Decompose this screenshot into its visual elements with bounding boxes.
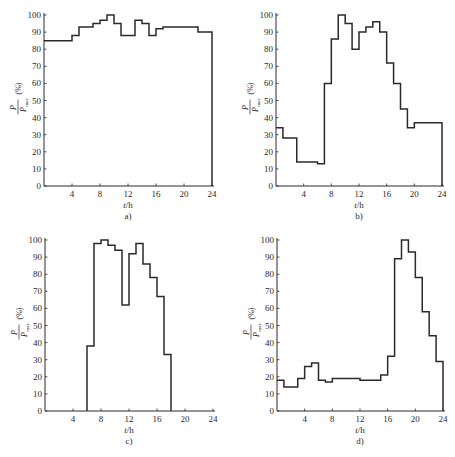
panel-label: d) xyxy=(356,436,364,446)
y-tick-label: 10 xyxy=(265,389,275,399)
chart-panel-d: 01020304050607080901004812162024t/hd)PPm… xyxy=(0,0,228,225)
x-tick-label: 4 xyxy=(302,414,307,424)
y-tick-label: 100 xyxy=(261,235,275,245)
y-tick-label: 40 xyxy=(265,338,275,348)
y-label-numerator: P xyxy=(242,330,251,336)
y-tick-label: 80 xyxy=(265,269,275,279)
y-tick-label: 30 xyxy=(265,355,275,365)
x-axis-label: t/h xyxy=(355,425,365,435)
y-label-denominator: P xyxy=(252,332,261,338)
step-chart-d: 01020304050607080901004812162024t/hd)PPm… xyxy=(0,0,455,457)
y-tick-label: 90 xyxy=(265,252,275,262)
x-tick-label: 24 xyxy=(439,414,449,424)
x-tick-label: 20 xyxy=(411,414,421,424)
y-tick-label: 70 xyxy=(265,286,275,296)
y-label-unit: (%) xyxy=(247,307,256,319)
x-tick-label: 16 xyxy=(383,414,393,424)
y-tick-label: 50 xyxy=(265,321,275,331)
y-axis-label: PPmax(%) xyxy=(242,307,262,339)
y-tick-label: 60 xyxy=(265,303,275,313)
y-tick-label: 20 xyxy=(265,372,275,382)
x-tick-label: 12 xyxy=(356,414,365,424)
y-tick-label: 0 xyxy=(270,406,275,416)
load-step-curve xyxy=(277,240,443,411)
y-label-subscript: max xyxy=(257,323,262,332)
x-tick-label: 8 xyxy=(330,414,335,424)
